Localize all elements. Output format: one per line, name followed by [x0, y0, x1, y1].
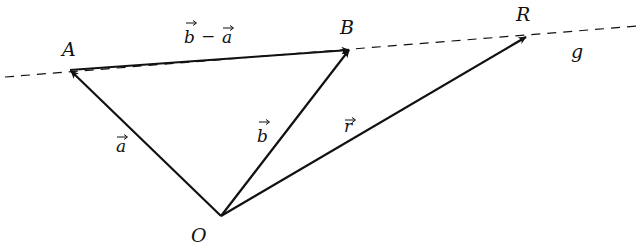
svg-text:r: r	[344, 116, 353, 136]
point-label-A: A	[60, 38, 76, 60]
svg-text:−: −	[201, 26, 215, 46]
vector-label-a: a	[116, 135, 128, 157]
point-label-O: O	[191, 224, 207, 246]
vector-accent-icon	[186, 21, 197, 26]
vector-b	[221, 50, 349, 216]
svg-text:b: b	[184, 27, 195, 47]
vector-b-minus-a	[70, 50, 349, 70]
vector-diagram: A B R O g a b r b − a	[0, 0, 638, 247]
vector-label-b-minus-a: b − a	[184, 21, 234, 48]
svg-text:b: b	[257, 126, 268, 146]
vector-accent-icon	[259, 120, 270, 125]
vector-label-b: b	[257, 120, 270, 147]
vector-label-r: r	[344, 116, 356, 136]
line-label-g: g	[571, 40, 583, 62]
vector-a	[71, 71, 221, 216]
point-label-B: B	[339, 16, 354, 38]
point-label-R: R	[515, 3, 530, 25]
